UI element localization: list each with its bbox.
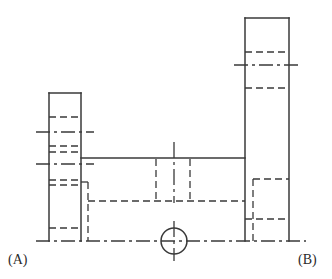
hidden-lines-group [49, 52, 289, 241]
center-lines-group [36, 65, 306, 241]
view-label-b: (B) [298, 252, 317, 268]
view-label-a: (A) [8, 252, 27, 268]
drawing-svg [0, 0, 332, 279]
engineering-drawing-canvas: (A) (B) [0, 0, 332, 279]
